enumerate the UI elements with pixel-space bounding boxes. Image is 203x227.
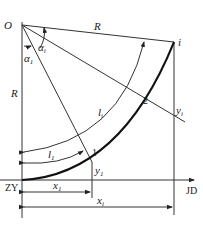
radius-left-label: R: [10, 87, 18, 99]
arc-li-dimension: [24, 42, 144, 152]
alpha-1-arc: [24, 46, 31, 47]
point-1-label: 1: [92, 147, 97, 158]
x1-label: x1: [52, 179, 61, 193]
alpha-1-label: α1: [24, 52, 33, 66]
arc-li-label: li: [98, 106, 103, 120]
zy-label: ZY: [5, 182, 18, 193]
curve-layout-diagram: O R R i 1 2 αi α1 li l1 yi y1 x1 xi ZY J…: [0, 0, 203, 227]
yi-label: yi: [175, 104, 183, 118]
point-2-label: 2: [143, 95, 148, 106]
jd-label: JD: [186, 185, 197, 196]
xi-label: xi: [96, 194, 104, 208]
origin-label: O: [4, 19, 12, 31]
radius-top-label: R: [93, 20, 101, 32]
arc-l1-label: l1: [48, 148, 55, 162]
y1-label: y1: [94, 164, 103, 178]
point-i-label: i: [178, 36, 181, 48]
alpha-i-label: αi: [38, 41, 46, 55]
